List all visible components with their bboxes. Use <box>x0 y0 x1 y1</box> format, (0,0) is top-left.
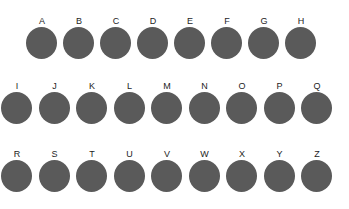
dot-z[interactable] <box>301 160 332 192</box>
dot-label-t: T <box>76 148 108 160</box>
dot-label-z: Z <box>301 148 333 160</box>
dot-label-s: S <box>39 148 71 160</box>
dot-label-w: W <box>189 148 221 160</box>
dot-t[interactable] <box>76 160 107 192</box>
row-3: RSTUVWXYZ <box>0 0 349 209</box>
dot-cell-v[interactable]: V <box>151 148 183 192</box>
dot-x[interactable] <box>226 160 257 192</box>
dot-r[interactable] <box>1 160 32 192</box>
dot-cell-w[interactable]: W <box>189 148 221 192</box>
dot-w[interactable] <box>189 160 220 192</box>
dot-label-r: R <box>1 148 33 160</box>
labelled-dot-grid: ABCDEFGHIJKLMNOPQRSTUVWXYZ <box>0 0 349 209</box>
dot-label-x: X <box>226 148 258 160</box>
dot-cell-u[interactable]: U <box>114 148 146 192</box>
dot-y[interactable] <box>264 160 295 192</box>
dot-s[interactable] <box>39 160 70 192</box>
dot-cell-x[interactable]: X <box>226 148 258 192</box>
dot-cell-y[interactable]: Y <box>264 148 296 192</box>
dot-v[interactable] <box>151 160 182 192</box>
dot-u[interactable] <box>114 160 145 192</box>
dot-cell-r[interactable]: R <box>1 148 33 192</box>
dot-label-y: Y <box>264 148 296 160</box>
dot-cell-s[interactable]: S <box>39 148 71 192</box>
dot-label-v: V <box>151 148 183 160</box>
dot-cell-z[interactable]: Z <box>301 148 333 192</box>
dot-label-u: U <box>114 148 146 160</box>
dot-cell-t[interactable]: T <box>76 148 108 192</box>
